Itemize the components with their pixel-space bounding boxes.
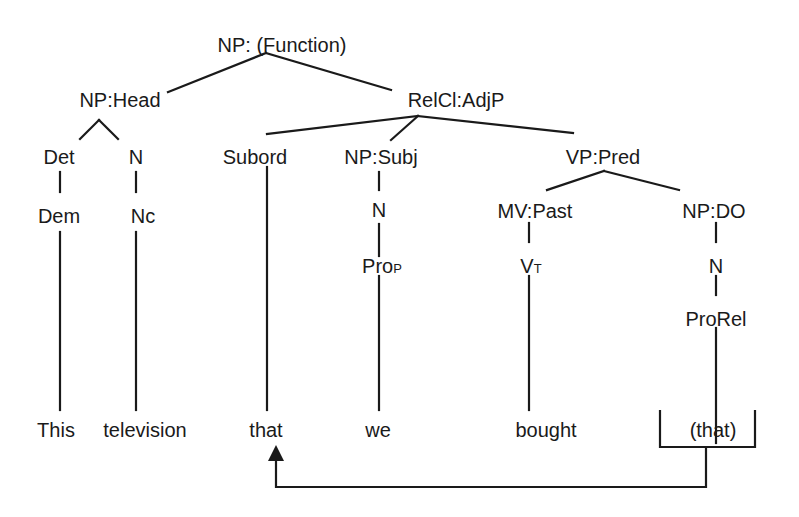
branch-relcl-vppred: [418, 116, 573, 133]
branch-vppred-npdo: [604, 171, 679, 190]
node-np-head: NP:Head: [79, 89, 160, 111]
word-television: television: [103, 419, 186, 441]
word-bought: bought: [515, 419, 576, 441]
movement-arrow-line: [276, 447, 706, 487]
prop-main: Pro: [362, 255, 393, 277]
branch-nphead-n: [99, 120, 118, 139]
vt-main: V: [520, 255, 533, 277]
node-root: NP: (Function): [218, 34, 347, 56]
word-that-gap: (that): [690, 419, 737, 441]
node-prop: ProP: [362, 255, 402, 280]
word-that: that: [249, 419, 282, 441]
node-dem: Dem: [38, 205, 80, 227]
vt-sub: T: [534, 261, 542, 276]
node-mv-past: MV:Past: [498, 200, 573, 222]
node-vt: VT: [520, 255, 541, 280]
node-subj-n: N: [372, 199, 386, 221]
node-do-n: N: [709, 255, 723, 277]
branch-root-nphead: [168, 53, 266, 92]
node-prorel: ProRel: [685, 308, 746, 330]
branch-relcl-subord: [267, 116, 418, 134]
word-this: This: [37, 419, 75, 441]
word-we: we: [365, 419, 391, 441]
branch-vppred-mv: [547, 171, 604, 190]
syntax-tree-diagram: NP: (Function) NP:Head Det N Dem Nc RelC…: [0, 0, 799, 517]
node-np-subj: NP:Subj: [344, 146, 417, 168]
node-nc: Nc: [131, 205, 155, 227]
prop-sub: P: [393, 261, 402, 276]
node-np-do: NP:DO: [682, 200, 745, 222]
node-subord: Subord: [223, 146, 288, 168]
arrow-head-icon: [268, 445, 284, 461]
node-det: Det: [43, 146, 74, 168]
node-vp-pred: VP:Pred: [566, 146, 640, 168]
node-relcl-adjp: RelCl:AdjP: [408, 89, 505, 111]
node-n: N: [129, 146, 143, 168]
branch-nphead-det: [80, 120, 99, 139]
branch-root-relcl: [266, 53, 391, 90]
